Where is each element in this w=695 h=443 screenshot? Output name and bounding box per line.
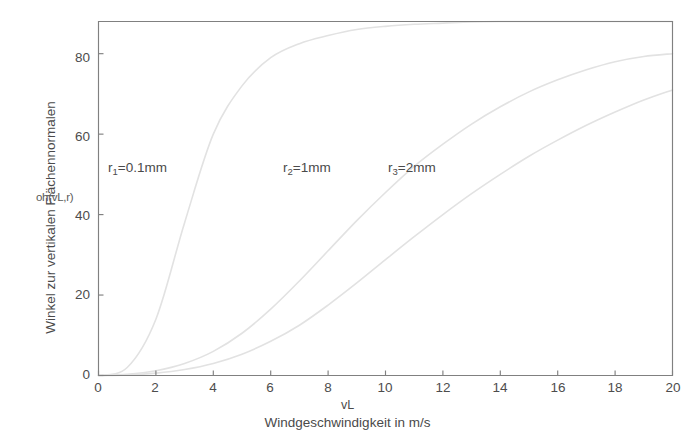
x-tick-label-6: 6 bbox=[257, 381, 283, 395]
y-tick-label-60: 60 bbox=[56, 130, 90, 144]
y-tick-label-40: 40 bbox=[56, 209, 90, 223]
plot-frame bbox=[99, 22, 673, 376]
y-tick-label-0: 0 bbox=[56, 368, 90, 382]
plot-area bbox=[0, 0, 695, 443]
x-tick-label-20: 20 bbox=[660, 381, 686, 395]
curve-label-r1-subscript: 1 bbox=[113, 166, 118, 177]
curve-label-r1-text: =0.1mm bbox=[118, 160, 167, 175]
curve-series-2 bbox=[99, 54, 673, 376]
curves-group bbox=[99, 21, 673, 375]
x-tick-label-0: 0 bbox=[85, 381, 111, 395]
curve-series-1 bbox=[99, 21, 673, 375]
x-tick-label-14: 14 bbox=[487, 381, 513, 395]
x-tick-label-8: 8 bbox=[315, 381, 341, 395]
curve-label-r1: r1=0.1mm bbox=[108, 160, 167, 175]
x-tick-label-10: 10 bbox=[372, 381, 398, 395]
y-tick-label-80: 80 bbox=[56, 51, 90, 65]
x-tick-label-4: 4 bbox=[200, 381, 226, 395]
curve-label-r2: r2=1mm bbox=[283, 160, 331, 175]
curve-label-r2-subscript: 2 bbox=[288, 166, 293, 177]
curve-label-r3-text: =2mm bbox=[398, 160, 436, 175]
x-tick-label-18: 18 bbox=[602, 381, 628, 395]
x-axis-title: Windgeschwindigkeit in m/s bbox=[0, 415, 695, 430]
chart-figure: Winkel zur vertikalen Flächennormalen oh… bbox=[0, 0, 695, 443]
curve-label-r3-subscript: 3 bbox=[393, 166, 398, 177]
x-tick-label-12: 12 bbox=[430, 381, 456, 395]
y-tick-label-20: 20 bbox=[56, 288, 90, 302]
curve-series-3 bbox=[99, 90, 673, 376]
curve-label-r2-text: =1mm bbox=[293, 160, 331, 175]
x-axis-variable-label: vL bbox=[0, 398, 695, 412]
x-tick-label-16: 16 bbox=[545, 381, 571, 395]
y-axis-function-label: oh(vL,r) bbox=[36, 191, 73, 203]
x-tick-label-2: 2 bbox=[142, 381, 168, 395]
curve-label-r3: r3=2mm bbox=[388, 160, 436, 175]
axis-ticks bbox=[99, 54, 673, 376]
plot-box-frame bbox=[99, 22, 673, 376]
